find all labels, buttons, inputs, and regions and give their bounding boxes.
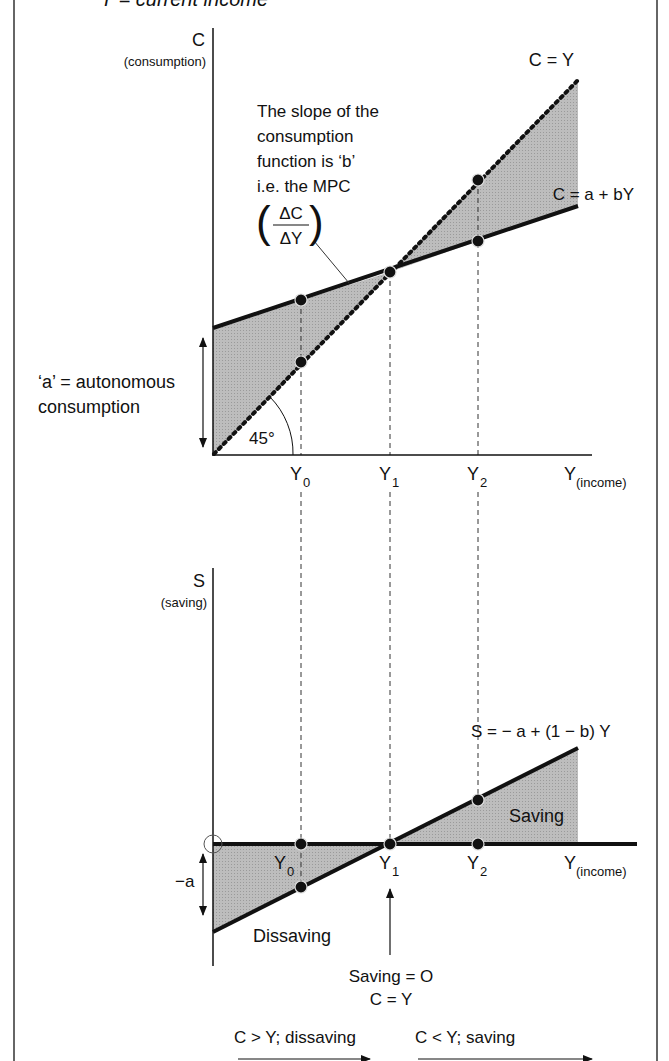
- point-y0-axis: [295, 838, 307, 850]
- slope-note-line-3: function is ‘b’: [257, 152, 355, 171]
- point-y2-income: [472, 174, 484, 186]
- svg-text:Y: Y: [290, 464, 302, 484]
- mpc-numerator: ΔC: [279, 204, 303, 223]
- top-diagram: C (consumption) C = Y C = a + bY The slo…: [38, 28, 634, 490]
- svg-text:2: 2: [480, 864, 487, 879]
- svg-text:(income): (income): [576, 475, 627, 490]
- svg-text:1: 1: [392, 475, 399, 490]
- header-caption: Y = current income: [100, 0, 268, 10]
- mpc-denominator: ΔY: [280, 229, 303, 248]
- autonomous-label-line-1: ‘a’ = autonomous: [38, 372, 175, 392]
- breakeven-note-line-2: C = Y: [370, 990, 413, 1009]
- left-paren: (: [256, 197, 271, 246]
- dissaving-direction-label: C > Y; dissaving: [234, 1028, 356, 1047]
- s-axis-sublabel: (saving): [161, 595, 207, 610]
- point-y2-consumption: [472, 235, 484, 247]
- s-axis-label: S: [193, 571, 205, 591]
- x-tick-y1-top: Y 1: [379, 464, 399, 490]
- point-y0-dissaving: [295, 881, 307, 893]
- autonomous-label-line-2: consumption: [38, 397, 140, 417]
- saving-direction-label: C < Y; saving: [415, 1028, 515, 1047]
- x-tick-y1-bottom: Y 1: [379, 853, 399, 879]
- point-y0-income: [295, 356, 307, 368]
- point-y1-zero-saving: [384, 838, 396, 850]
- breakeven-note-line-1: Saving = O: [349, 967, 434, 986]
- svg-text:2: 2: [480, 475, 487, 490]
- slope-note-line-4: i.e. the MPC: [257, 177, 351, 196]
- consumption-saving-diagram: Y = current income: [0, 0, 669, 1061]
- slope-callout-line: [314, 241, 349, 283]
- point-y0-consumption: [295, 294, 307, 306]
- footer: C > Y; dissaving C < Y; saving: [234, 1028, 592, 1059]
- x-tick-y0-top: Y 0: [290, 464, 310, 490]
- svg-text:1: 1: [392, 864, 399, 879]
- c-axis-label: C: [192, 30, 205, 50]
- income-axis-label-bottom: Y (income): [564, 853, 627, 879]
- svg-text:(income): (income): [576, 864, 627, 879]
- x-tick-y2-top: Y 2: [467, 464, 487, 490]
- svg-text:Y: Y: [379, 853, 391, 873]
- mpc-fraction: ( ΔC ΔY ): [256, 197, 324, 248]
- x-tick-y2-bottom: Y 2: [467, 853, 487, 879]
- neg-a-label: −a: [175, 872, 195, 891]
- line-45-label: C = Y: [529, 50, 574, 70]
- angle-label: 45°: [249, 429, 275, 448]
- svg-text:Y: Y: [564, 853, 576, 873]
- consumption-line-label: C = a + bY: [553, 185, 634, 204]
- svg-text:Y: Y: [467, 853, 479, 873]
- slope-note-line-1: The slope of the: [257, 102, 379, 121]
- svg-text:Y: Y: [467, 464, 479, 484]
- svg-text:0: 0: [287, 864, 294, 879]
- point-y1-breakeven: [384, 266, 396, 278]
- c-axis-sublabel: (consumption): [124, 54, 206, 69]
- svg-text:Y: Y: [379, 464, 391, 484]
- point-y2-saving: [472, 794, 484, 806]
- svg-text:Y: Y: [274, 853, 286, 873]
- slope-note-line-2: consumption: [257, 127, 353, 146]
- bottom-diagram: S (saving) S = − a + (1 − b) Y Saving Di…: [161, 568, 637, 1009]
- saving-region-label: Saving: [509, 806, 564, 826]
- svg-text:Y: Y: [564, 464, 576, 484]
- point-y2-axis: [472, 838, 484, 850]
- dissaving-region-label: Dissaving: [253, 926, 331, 946]
- svg-text:0: 0: [303, 475, 310, 490]
- income-axis-label-top: Y (income): [564, 464, 627, 490]
- saving-line-label: S = − a + (1 − b) Y: [471, 722, 611, 741]
- right-paren: ): [309, 197, 324, 246]
